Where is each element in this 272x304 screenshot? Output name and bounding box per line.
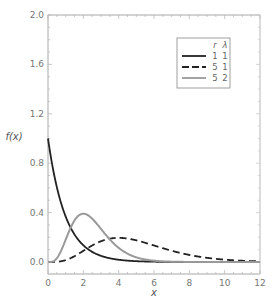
- legend: rλ115152: [177, 38, 230, 88]
- legend-r-value: 5: [212, 62, 217, 72]
- x-tick-label: 4: [116, 278, 122, 288]
- plot-curves: [48, 139, 260, 263]
- y-tick-label: 0.0: [30, 257, 45, 267]
- x-axis-label: x: [150, 287, 157, 298]
- legend-r-value: 1: [212, 51, 217, 61]
- legend-header-lambda: λ: [221, 40, 227, 50]
- x-tick-label: 0: [45, 278, 51, 288]
- y-tick-label: 1.6: [30, 59, 45, 69]
- curve-r1-lambda1: [48, 139, 260, 263]
- x-tick-label: 12: [254, 278, 265, 288]
- legend-lambda-value: 1: [222, 51, 227, 61]
- x-tick-label: 2: [80, 278, 86, 288]
- legend-header-r: r: [213, 40, 217, 50]
- y-tick-label: 0.8: [30, 158, 45, 168]
- legend-r-value: 5: [212, 73, 217, 83]
- y-tick-label: 2.0: [30, 10, 45, 20]
- y-tick-label: 0.4: [30, 208, 45, 218]
- legend-lambda-value: 2: [222, 73, 227, 83]
- x-tick-label: 8: [186, 278, 192, 288]
- legend-lambda-value: 1: [222, 62, 227, 72]
- y-tick-label: 1.2: [30, 109, 44, 119]
- x-tick-label: 10: [219, 278, 231, 288]
- y-axis-label: f(x): [5, 131, 22, 142]
- curve-r5-lambda2: [48, 214, 260, 262]
- gamma-density-chart: 0246810120.00.40.81.21.62.0 x f(x) rλ115…: [0, 0, 272, 304]
